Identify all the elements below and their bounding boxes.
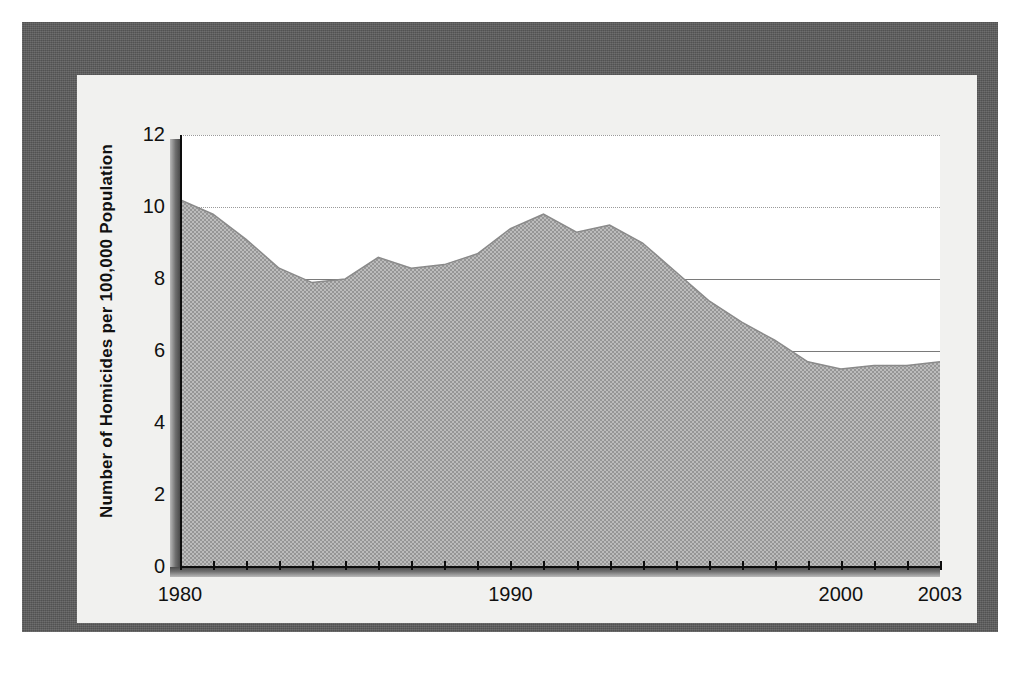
x-tick-label: 2000 [819,583,864,606]
chart-panel: Number of Homicides per 100,000 Populati… [77,75,977,623]
x-tick [312,561,314,570]
x-axis-ticks [180,561,942,571]
x-tick-label: 1990 [488,583,533,606]
y-tick-label: 12 [119,124,165,144]
x-tick [543,561,545,570]
y-tick-label: 0 [119,556,165,576]
x-tick [510,561,512,570]
y-axis-shadow [170,139,180,575]
figure-container: Number of Homicides per 100,000 Populati… [0,0,1021,676]
x-tick [742,561,744,570]
x-tick [841,561,843,570]
y-tick-label: 8 [119,268,165,288]
x-tick [775,561,777,570]
x-tick [907,561,909,570]
x-tick [378,561,380,570]
x-tick-label: 2003 [918,583,963,606]
x-tick [808,561,810,570]
x-tick [577,561,579,570]
x-tick [940,561,942,570]
x-tick [213,561,215,570]
y-tick-label: 6 [119,340,165,360]
x-tick [180,561,182,570]
x-tick [874,561,876,570]
y-axis-line [180,135,182,568]
y-axis-tick-labels: 024681012 [113,75,165,623]
plot-wrapper: Number of Homicides per 100,000 Populati… [77,75,977,623]
y-tick-label: 2 [119,484,165,504]
x-tick [279,561,281,570]
x-tick [477,561,479,570]
area-fill [180,200,940,567]
x-tick [610,561,612,570]
x-tick [411,561,413,570]
figure-border: Number of Homicides per 100,000 Populati… [22,22,998,632]
y-tick-label: 10 [119,196,165,216]
y-tick-label: 4 [119,412,165,432]
x-tick [345,561,347,570]
x-tick-label: 1980 [158,583,203,606]
area-series [180,135,940,567]
x-tick [444,561,446,570]
x-tick [643,561,645,570]
plot-area [180,135,940,567]
x-tick [676,561,678,570]
x-tick [246,561,248,570]
x-tick [709,561,711,570]
